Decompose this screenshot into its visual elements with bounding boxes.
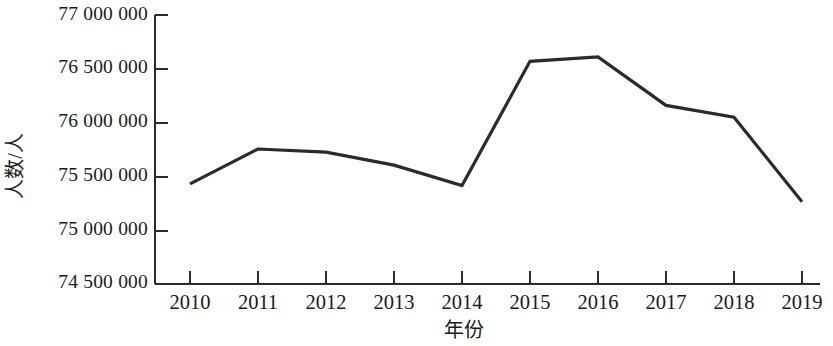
x-axis-tick-labels: 2010 2011 2012 2013 2014 2015 2016 2017 … bbox=[170, 291, 823, 313]
x-tick-label: 2019 bbox=[782, 291, 823, 313]
y-tick-label: 77 000 000 bbox=[58, 3, 148, 24]
y-axis-ticks bbox=[155, 15, 168, 284]
x-tick-label: 2016 bbox=[578, 291, 619, 313]
x-axis-ticks bbox=[190, 271, 802, 284]
y-axis-title: 人数/人 bbox=[4, 133, 26, 199]
y-tick-label: 75 000 000 bbox=[58, 218, 148, 239]
x-tick-label: 2010 bbox=[170, 291, 211, 313]
y-tick-label: 76 500 000 bbox=[58, 56, 148, 77]
y-tick-label: 74 500 000 bbox=[58, 271, 148, 292]
x-tick-label: 2018 bbox=[714, 291, 755, 313]
x-tick-label: 2017 bbox=[646, 291, 687, 313]
line-chart: 77 000 000 76 500 000 76 000 000 75 500 … bbox=[0, 0, 833, 346]
x-tick-label: 2013 bbox=[374, 291, 415, 313]
x-axis-title: 年份 bbox=[444, 319, 484, 341]
data-series-line bbox=[190, 57, 802, 202]
x-tick-label: 2011 bbox=[238, 291, 278, 313]
y-axis-tick-labels: 77 000 000 76 500 000 76 000 000 75 500 … bbox=[58, 3, 148, 292]
y-tick-label: 76 000 000 bbox=[58, 110, 148, 131]
x-tick-label: 2012 bbox=[306, 291, 347, 313]
chart-page: 77 000 000 76 500 000 76 000 000 75 500 … bbox=[0, 0, 833, 346]
x-tick-label: 2014 bbox=[442, 291, 483, 313]
y-tick-label: 75 500 000 bbox=[58, 164, 148, 185]
x-tick-label: 2015 bbox=[510, 291, 551, 313]
